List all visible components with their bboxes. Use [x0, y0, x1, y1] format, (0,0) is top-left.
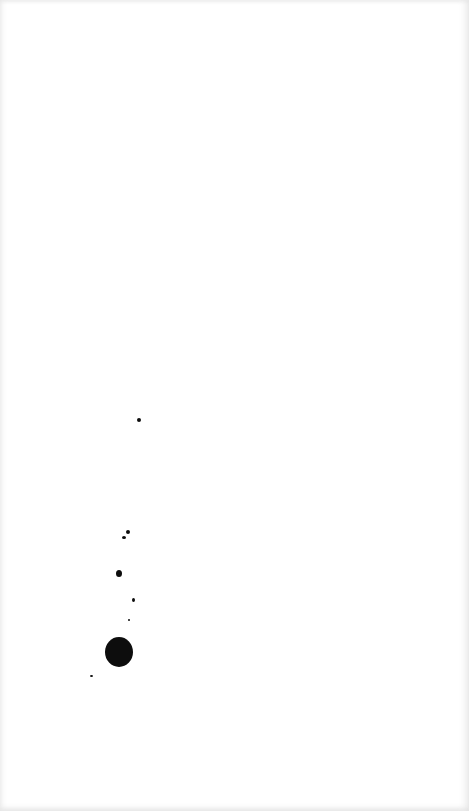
ink-spot — [128, 619, 130, 621]
ink-spot — [137, 418, 141, 422]
ink-spot — [132, 598, 135, 602]
ink-spot — [90, 675, 93, 677]
ink-spot — [122, 536, 126, 539]
scanned-paper — [0, 0, 469, 811]
ink-spot — [105, 637, 133, 667]
ink-spot — [126, 530, 130, 534]
ink-spot — [116, 570, 122, 577]
